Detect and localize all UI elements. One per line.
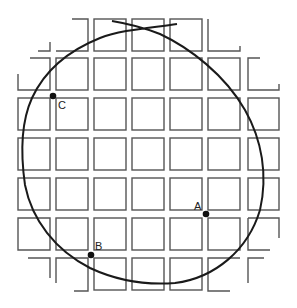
point-a-label: A: [194, 201, 201, 212]
diagram-canvas: A B C: [0, 0, 297, 308]
point-b-marker: [88, 252, 95, 259]
point-a-marker: [203, 211, 210, 218]
grid-squares: [18, 19, 279, 291]
point-b-label: B: [95, 241, 102, 252]
point-c-label: C: [58, 100, 66, 111]
grid-and-curve: [0, 0, 297, 308]
point-c-marker: [50, 93, 57, 100]
closed-curve: [22, 21, 263, 284]
